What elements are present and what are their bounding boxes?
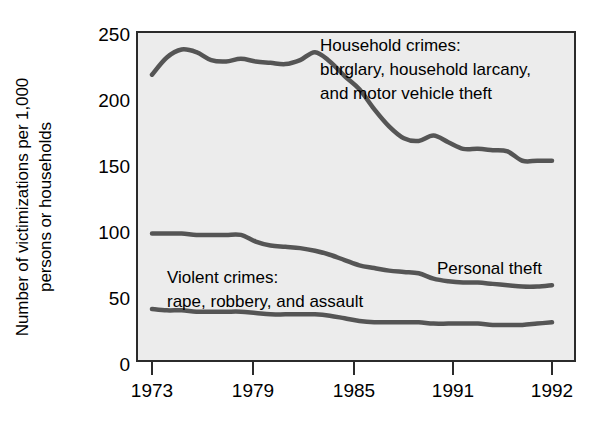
chart-figure: Number of victimizations per 1,000 perso… bbox=[0, 0, 604, 428]
x-tick-1991: 1991 bbox=[408, 381, 498, 400]
annotation-household-line-1: Household crimes: bbox=[320, 34, 531, 58]
x-tick-1985: 1985 bbox=[309, 381, 399, 400]
x-tick-1973: 1973 bbox=[107, 381, 197, 400]
annotation-personal-theft: Personal theft bbox=[437, 257, 542, 281]
annotation-violent-line-1: Violent crimes: bbox=[167, 266, 363, 290]
x-axis-tick-labels: 1973 1979 1985 1991 1992 bbox=[0, 381, 604, 407]
annotation-household-line-2: burglary, household larcany, bbox=[320, 58, 531, 82]
annotation-violent-line-2: rape, robbery, and assault bbox=[167, 290, 363, 314]
annotation-violent-crimes: Violent crimes: rape, robbery, and assau… bbox=[167, 266, 363, 314]
annotation-household-line-3: and motor vehicle theft bbox=[320, 82, 531, 106]
annotation-household-crimes: Household crimes: burglary, household la… bbox=[320, 34, 531, 106]
annotation-personal-theft-line-1: Personal theft bbox=[437, 257, 542, 281]
x-tick-1979: 1979 bbox=[208, 381, 298, 400]
x-tick-1992: 1992 bbox=[507, 381, 597, 400]
